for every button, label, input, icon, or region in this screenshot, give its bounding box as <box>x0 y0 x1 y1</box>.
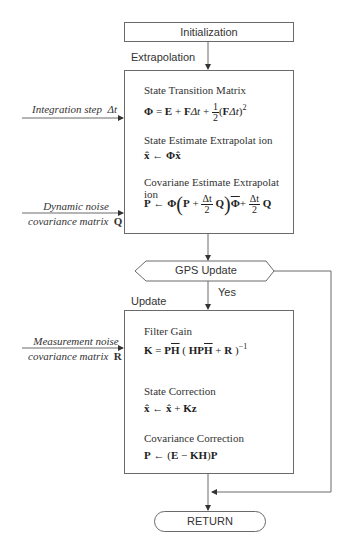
initialization-label: Initialization <box>125 23 293 41</box>
update-section-label: Update <box>131 295 166 307</box>
gps-update-label: GPS Update <box>146 264 266 276</box>
extrapolation-section-label: Extrapolation <box>131 51 195 63</box>
return-terminal: RETURN <box>154 511 266 532</box>
filter-gain-equation: K = PH ( HPH + R )−1 <box>144 342 247 356</box>
update-box: Filter Gain K = PH ( HPH + R )−1 State C… <box>124 310 294 474</box>
filter-gain-title: Filter Gain <box>144 325 192 337</box>
yes-branch-label: Yes <box>218 286 236 298</box>
initialization-box: Initialization <box>124 22 294 42</box>
state-transition-title: State Transition Matrix <box>144 84 246 96</box>
state-correction-title: State Correction <box>144 385 216 397</box>
covariance-estimate-equation: P ← Φ(P + Δt2 Q)Φ+ Δt2 Q <box>144 193 271 216</box>
covariance-correction-equation: P ← (E − KH)P <box>144 449 218 461</box>
return-label: RETURN <box>155 512 265 531</box>
integration-step-input-label: Integration step Δt <box>32 103 117 115</box>
extrapolation-box: State Transition Matrix Φ = E + FΔt + 12… <box>124 70 294 234</box>
state-transition-equation: Φ = E + FΔt + 12(FΔt)2 <box>144 102 246 123</box>
measurement-noise-input-label: Measurement noise <box>30 335 122 347</box>
state-estimate-title: State Estimate Extrapolat ion <box>144 134 273 146</box>
measurement-noise-input-label-line2: covariance matrix R <box>28 350 122 362</box>
dynamic-noise-input-label-line2: covariance matrix Q <box>28 215 122 227</box>
dynamic-noise-input-label: Dynamic noise <box>30 200 122 212</box>
state-correction-equation: x̂ ← x̂ + Kz <box>144 402 197 414</box>
state-estimate-equation: x̂ ← Φx̂ <box>144 149 181 161</box>
covariance-correction-title: Covariance Correction <box>144 432 244 444</box>
